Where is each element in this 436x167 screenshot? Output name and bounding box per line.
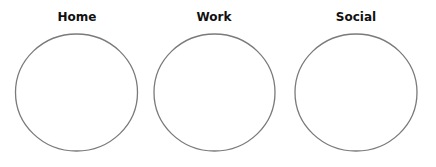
circle-social	[295, 34, 417, 151]
circles-canvas	[0, 0, 436, 167]
circle-work	[154, 34, 275, 151]
circle-diagram: Home Work Social	[0, 0, 436, 167]
circle-home	[16, 34, 138, 151]
